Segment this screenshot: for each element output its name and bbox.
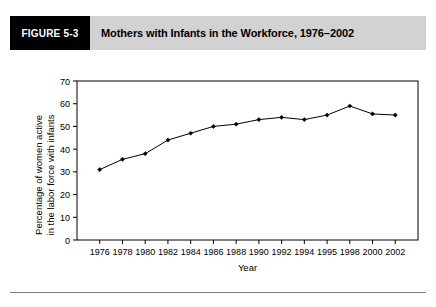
data-point-marker (348, 104, 352, 108)
series-markers (98, 104, 398, 172)
data-point-marker (189, 131, 193, 135)
x-tick-label: 1986 (203, 247, 223, 257)
x-tick-label: 1995 (317, 247, 337, 257)
data-point-marker (325, 113, 329, 117)
data-point-marker (211, 124, 215, 128)
figure-number-badge: FIGURE 5-3 (10, 16, 90, 50)
y-tick-label: 30 (60, 167, 70, 177)
data-point-marker (393, 113, 397, 117)
y-tick-label: 40 (60, 145, 70, 155)
series-line-percentage (100, 106, 396, 170)
y-axis-title-line2: in the labor force with infants (45, 114, 56, 235)
figure-title: Mothers with Infants in the Workforce, 1… (90, 16, 426, 50)
data-point-marker (302, 118, 306, 122)
y-tick-label: 20 (60, 190, 70, 200)
plot-frame (77, 81, 418, 240)
data-point-marker (257, 118, 261, 122)
x-tick-label: 2002 (385, 247, 405, 257)
x-tick-label: 1992 (272, 247, 292, 257)
data-point-marker (280, 115, 284, 119)
data-point-marker (370, 112, 374, 116)
y-tick-label: 60 (60, 99, 70, 109)
x-axis-ticks: 1976197819801982198419861988199019921994… (90, 240, 406, 257)
x-tick-label: 1998 (340, 247, 360, 257)
data-point-marker (143, 152, 147, 156)
x-tick-label: 1990 (249, 247, 269, 257)
y-tick-label: 10 (60, 213, 70, 223)
x-tick-label: 1988 (226, 247, 246, 257)
data-point-marker (234, 122, 238, 126)
y-axis-title: Percentage of women active in the labor … (33, 114, 56, 235)
data-point-marker (120, 157, 124, 161)
y-axis-ticks: 010203040506070 (60, 77, 77, 246)
y-tick-label: 50 (60, 122, 70, 132)
x-axis-title: Year (238, 262, 257, 273)
data-point-marker (98, 167, 102, 171)
x-tick-label: 1978 (112, 247, 132, 257)
x-tick-label: 1980 (135, 247, 155, 257)
footer-rule (10, 292, 426, 293)
x-tick-label: 1984 (181, 247, 201, 257)
y-tick-label: 70 (60, 77, 70, 87)
x-tick-label: 1982 (158, 247, 178, 257)
data-point-marker (166, 138, 170, 142)
y-axis-title-line1: Percentage of women active (33, 115, 44, 235)
line-chart: Percentage of women active in the labor … (0, 58, 436, 273)
chart-container: Percentage of women active in the labor … (0, 58, 436, 273)
figure-header: FIGURE 5-3 Mothers with Infants in the W… (10, 16, 426, 50)
x-tick-label: 2000 (363, 247, 383, 257)
x-tick-label: 1976 (90, 247, 110, 257)
x-tick-label: 1994 (294, 247, 314, 257)
y-tick-label: 0 (65, 236, 70, 246)
